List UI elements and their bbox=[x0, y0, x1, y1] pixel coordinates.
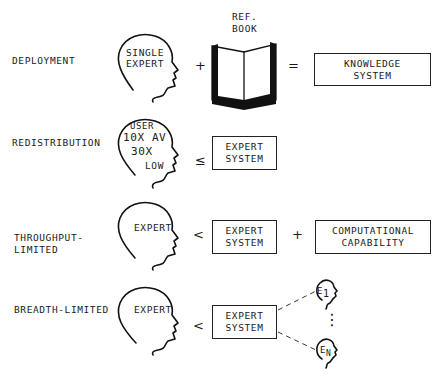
head-text: SINGLEEXPERT bbox=[122, 47, 168, 69]
row-label-redistribution: REDISTRIBUTION bbox=[12, 137, 100, 149]
head-text: EXPERT bbox=[134, 304, 172, 315]
row-label-deployment: DEPLOYMENT bbox=[12, 55, 75, 67]
less-than-operator: < bbox=[193, 318, 204, 333]
expert-system-box: EXPERTSYSTEM bbox=[212, 136, 277, 170]
less-or-equal-operator: ≤ bbox=[195, 153, 206, 168]
computational-capability-box: COMPUTATIONALCAPABILITY bbox=[315, 220, 431, 254]
expert-system-box: EXPERTSYSTEM bbox=[212, 220, 277, 254]
small-head-label-e1: E1 bbox=[317, 286, 330, 299]
book-icon bbox=[212, 42, 276, 110]
ellipsis-vertical: ⋮ bbox=[324, 312, 340, 328]
less-than-operator: < bbox=[193, 227, 204, 242]
row-label-throughput-limited: THROUGHPUT-LIMITED bbox=[14, 232, 84, 256]
plus-operator: + bbox=[292, 227, 303, 242]
small-head-label-en: EN bbox=[320, 345, 331, 359]
plus-operator: + bbox=[195, 58, 206, 73]
book-label: REF.BOOK bbox=[232, 11, 257, 35]
knowledge-system-box: KNOWLEDGESYSTEM bbox=[314, 53, 431, 86]
head-icon bbox=[118, 288, 178, 355]
head-icon bbox=[118, 203, 178, 270]
head-text-low: LOW bbox=[145, 160, 164, 171]
head-text-10x: 10X AV bbox=[123, 132, 166, 143]
head-text-30x: 30X bbox=[131, 146, 153, 157]
expert-system-box: EXPERTSYSTEM bbox=[212, 305, 277, 339]
equals-operator: = bbox=[288, 58, 299, 73]
row-label-breadth-limited: BREADTH-LIMITED bbox=[14, 304, 109, 316]
head-text: EXPERT bbox=[134, 222, 172, 233]
